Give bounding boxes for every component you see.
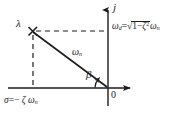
omega-n-vector xyxy=(33,32,107,87)
s-plane-diagram: λ j ωn β 0 σ=− ζ ωn ωd=√1−ζ2ωn xyxy=(0,0,191,114)
omega-d-trailing: ω xyxy=(150,21,157,31)
omega-n-base: ω xyxy=(72,46,79,57)
damped-frequency-label: ωd=√1−ζ2ωn xyxy=(112,21,160,32)
omega-d-trailing-subscript: n xyxy=(157,25,160,31)
sigma-expression-label: σ=− ζ ωn xyxy=(4,96,38,106)
sigma-zeta: ζ xyxy=(22,95,26,105)
origin-label: 0 xyxy=(111,90,116,100)
omega-n-label: ωn xyxy=(72,47,82,58)
pole-x-marker xyxy=(29,27,38,36)
beta-angle-arc xyxy=(95,79,98,87)
sigma-omega: ω xyxy=(28,95,35,105)
sigma-omega-subscript: n xyxy=(35,99,38,105)
radicand: 1−ζ2 xyxy=(131,21,150,32)
imaginary-axis-label: j xyxy=(113,2,116,13)
beta-angle-label: β xyxy=(86,69,91,80)
omega-d-base: ω xyxy=(112,21,119,31)
radicand-exponent: 2 xyxy=(146,21,149,27)
sigma-minus: − xyxy=(14,95,19,105)
omega-n-subscript: n xyxy=(79,50,82,57)
pole-label-lambda: λ xyxy=(16,18,21,29)
